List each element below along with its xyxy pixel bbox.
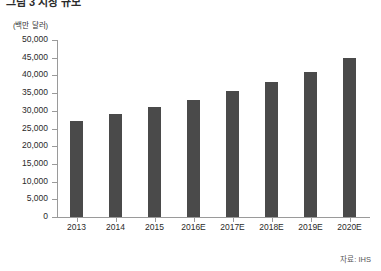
x-axis-tick-mark [116, 218, 117, 222]
y-axis-tick-label: 20,000 [22, 140, 48, 150]
x-axis-tick-label: 2019E [291, 222, 330, 232]
y-axis-tick-label: 15,000 [22, 158, 48, 168]
bar [148, 107, 161, 217]
y-axis-tick-label: 35,000 [22, 87, 48, 97]
x-axis-tick-label: 2017E [213, 222, 252, 232]
y-axis-tick-label: 0 [43, 211, 48, 221]
page-title: 그림 3 시장 규모 [6, 0, 81, 9]
bar [304, 72, 317, 217]
x-axis-tick-mark [350, 218, 351, 222]
bar [109, 114, 122, 217]
chart-title-clipped: 그림 3 시장 규모 [0, 0, 381, 9]
x-axis-tick-label: 2013 [57, 222, 96, 232]
x-axis-line [57, 217, 370, 218]
x-axis-tick-label: 2020E [330, 222, 369, 232]
y-axis-unit-label: (백만 달러) [13, 19, 48, 30]
x-axis-tick-mark [233, 218, 234, 222]
bar [343, 58, 356, 217]
y-axis-tick-mark [52, 217, 57, 218]
y-axis-tick-label: 40,000 [22, 69, 48, 79]
x-axis-tick-label: 2018E [252, 222, 291, 232]
source-note: 자료: IHS [340, 253, 371, 264]
x-axis-tick-label: 2016E [174, 222, 213, 232]
y-axis-tick-label: 50,000 [22, 34, 48, 44]
x-axis-tick-mark [155, 218, 156, 222]
bar [226, 91, 239, 217]
bar [187, 100, 200, 217]
y-axis-tick-label: 30,000 [22, 105, 48, 115]
y-axis-tick-label: 45,000 [22, 52, 48, 62]
x-axis-tick-mark [272, 218, 273, 222]
y-axis-tick-label: 10,000 [22, 176, 48, 186]
x-axis-tick-label: 2015 [135, 222, 174, 232]
x-axis-tick-mark [194, 218, 195, 222]
x-axis-tick-mark [77, 218, 78, 222]
y-axis-tick-label: 25,000 [22, 123, 48, 133]
plot-area [57, 40, 369, 217]
bar [70, 121, 83, 217]
x-axis-tick-mark [311, 218, 312, 222]
x-axis-tick-label: 2014 [96, 222, 135, 232]
bar [265, 82, 278, 217]
y-axis-tick-label: 5,000 [27, 193, 48, 203]
